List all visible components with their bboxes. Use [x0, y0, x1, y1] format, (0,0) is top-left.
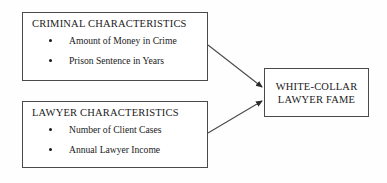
outcome-label: WHITE-COLLAR LAWYER FAME: [276, 80, 358, 106]
list-item-label: Amount of Money in Crime: [69, 35, 177, 46]
list-item-label: Number of Client Cases: [69, 124, 161, 135]
list-item: Number of Client Cases: [49, 124, 161, 135]
diagram-canvas: CRIMINAL CHARACTERISTICS Amount of Money…: [0, 0, 387, 183]
bullet-dot-icon: [49, 39, 52, 42]
outcome-label-line-2: LAWYER FAME: [276, 93, 358, 106]
list-item-label: Prison Sentence in Years: [69, 55, 164, 66]
bullet-dot-icon: [49, 59, 52, 62]
bullet-dot-icon: [49, 128, 52, 131]
arrow-criminal-to-outcome: [208, 45, 262, 87]
list-item-label: Annual Lawyer Income: [69, 144, 160, 155]
lawyer-characteristics-box: LAWYER CHARACTERISTICS Number of Client …: [22, 101, 208, 168]
list-item: Prison Sentence in Years: [49, 55, 177, 66]
bullet-dot-icon: [49, 148, 52, 151]
lawyer-characteristics-heading: LAWYER CHARACTERISTICS: [32, 107, 179, 118]
criminal-characteristics-list: Amount of Money in Crime Prison Sentence…: [49, 35, 177, 66]
list-item: Annual Lawyer Income: [49, 144, 161, 155]
arrow-lawyer-to-outcome: [208, 101, 262, 133]
white-collar-lawyer-fame-box: WHITE-COLLAR LAWYER FAME: [264, 68, 369, 117]
criminal-characteristics-heading: CRIMINAL CHARACTERISTICS: [32, 18, 187, 29]
lawyer-characteristics-list: Number of Client Cases Annual Lawyer Inc…: [49, 124, 161, 155]
list-item: Amount of Money in Crime: [49, 35, 177, 46]
criminal-characteristics-box: CRIMINAL CHARACTERISTICS Amount of Money…: [22, 12, 208, 81]
outcome-label-line-1: WHITE-COLLAR: [276, 80, 358, 93]
